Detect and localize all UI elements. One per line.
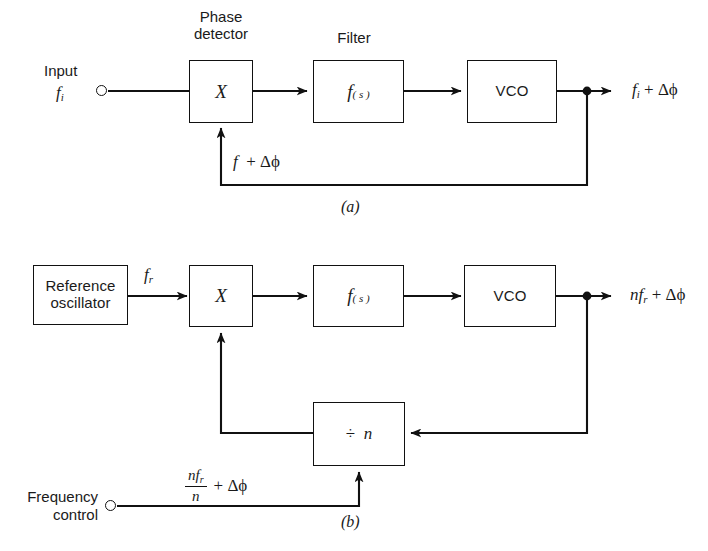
control-plus: + xyxy=(214,476,224,495)
reference-oscillator-line1: Reference xyxy=(45,278,115,295)
phase-detector-title-line2: detector xyxy=(155,25,287,42)
phase-detector-symbol-a: X xyxy=(215,81,227,103)
control-path-label: nfr n + Δϕ xyxy=(185,467,247,505)
filter-symbol-s-b: ( s ) xyxy=(353,292,370,304)
phase-detector-box-a[interactable]: X xyxy=(189,60,253,123)
wire-b-divider-to-pd xyxy=(221,333,313,433)
input-symbol-a: fi xyxy=(56,83,64,103)
output-label-b: nfr + Δϕ xyxy=(630,285,686,305)
vco-box-a[interactable]: VCO xyxy=(467,60,557,123)
reference-oscillator-box-b[interactable]: Reference oscillator xyxy=(33,265,128,325)
phase-detector-box-b[interactable]: X xyxy=(189,265,253,327)
divider-box-b[interactable]: ÷ n xyxy=(313,402,405,466)
caption-a: (a) xyxy=(341,198,360,216)
output-plus: + xyxy=(644,80,654,99)
feedback-delta-phi: Δϕ xyxy=(260,152,280,171)
frequency-control-line1: Frequency xyxy=(4,488,98,506)
frequency-control-terminal[interactable] xyxy=(105,500,116,511)
feedback-label-a: f + Δϕ xyxy=(233,152,280,172)
pll-block-diagram-figure: Input fi Phase detector X Filter f( s ) … xyxy=(0,0,708,551)
phase-detector-title-line1: Phase xyxy=(155,8,287,25)
control-num-subscript: r xyxy=(200,474,204,485)
divider-label: ÷ n xyxy=(346,424,372,444)
output-label-a: fi + Δϕ xyxy=(632,80,678,100)
output-delta-phi: Δϕ xyxy=(658,80,678,99)
reference-oscillator-label: Reference oscillator xyxy=(45,278,115,312)
vco-box-b[interactable]: VCO xyxy=(464,265,556,327)
vco-label-b: VCO xyxy=(494,288,527,305)
junction-dot-a xyxy=(583,87,592,96)
filter-symbol-s: ( s ) xyxy=(353,88,370,100)
control-fraction-denominator: n xyxy=(185,486,207,505)
control-fraction-numerator: nfr xyxy=(185,467,207,486)
divider-n: n xyxy=(364,424,373,443)
ref-out-subscript: r xyxy=(149,273,153,285)
input-label-a: Input xyxy=(44,62,77,80)
filter-box-a[interactable]: f( s ) xyxy=(313,60,404,123)
filter-symbol-a: f( s ) xyxy=(347,81,369,103)
filter-symbol-b: f( s ) xyxy=(347,285,369,307)
frequency-control-label: Frequency control xyxy=(4,488,98,523)
output-n-b: n xyxy=(630,285,639,304)
divider-division-sign: ÷ xyxy=(346,424,355,443)
filter-title-text: Filter xyxy=(303,29,405,46)
filter-title-a: Filter xyxy=(303,29,405,46)
reference-output-symbol-b: fr xyxy=(144,265,153,285)
control-tail: + Δϕ xyxy=(214,476,248,496)
input-label-text: Input xyxy=(44,62,77,79)
phase-detector-symbol-b: X xyxy=(215,285,227,307)
reference-oscillator-line2: oscillator xyxy=(45,295,115,312)
vco-label-a: VCO xyxy=(496,83,529,100)
frequency-control-line2: control xyxy=(4,506,98,524)
filter-box-b[interactable]: f( s ) xyxy=(313,265,404,327)
output-delta-phi-b: Δϕ xyxy=(666,285,686,304)
input-terminal-a[interactable] xyxy=(96,85,107,96)
phase-detector-title-a: Phase detector xyxy=(155,8,287,43)
junction-dot-b xyxy=(583,292,592,301)
caption-b: (b) xyxy=(341,513,360,531)
control-fraction: nfr n xyxy=(185,467,207,505)
control-num-n: n xyxy=(188,467,196,483)
output-plus-b: + xyxy=(652,285,662,304)
input-symbol-subscript: i xyxy=(61,91,64,103)
feedback-plus: + xyxy=(246,152,256,171)
control-delta-phi: Δϕ xyxy=(227,476,247,495)
